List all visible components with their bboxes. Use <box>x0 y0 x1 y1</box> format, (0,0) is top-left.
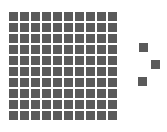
grid-square <box>20 89 29 98</box>
grid-square <box>75 100 84 109</box>
grid-square <box>9 78 18 87</box>
grid-square <box>42 67 51 76</box>
grid-square <box>9 34 18 43</box>
grid-square <box>20 45 29 54</box>
grid-square <box>86 56 95 65</box>
grid-square <box>97 56 106 65</box>
grid-square <box>20 67 29 76</box>
grid-square <box>9 100 18 109</box>
square-grid <box>9 12 117 120</box>
grid-square <box>108 12 117 21</box>
grid-square <box>86 45 95 54</box>
grid-square <box>53 78 62 87</box>
grid-square <box>42 12 51 21</box>
grid-square <box>108 23 117 32</box>
loose-square <box>151 60 160 69</box>
grid-square <box>64 100 73 109</box>
grid-square <box>75 78 84 87</box>
grid-square <box>86 78 95 87</box>
grid-square <box>9 67 18 76</box>
grid-square <box>75 111 84 120</box>
grid-square <box>31 56 40 65</box>
grid-square <box>53 67 62 76</box>
grid-square <box>53 56 62 65</box>
grid-square <box>42 89 51 98</box>
grid-square <box>31 23 40 32</box>
grid-square <box>108 67 117 76</box>
grid-square <box>64 111 73 120</box>
grid-square <box>108 45 117 54</box>
grid-square <box>31 67 40 76</box>
grid-square <box>53 45 62 54</box>
grid-square <box>75 23 84 32</box>
grid-square <box>31 34 40 43</box>
grid-square <box>64 12 73 21</box>
grid-square <box>9 89 18 98</box>
grid-square <box>97 23 106 32</box>
loose-square <box>139 43 148 52</box>
grid-square <box>75 56 84 65</box>
grid-square <box>108 89 117 98</box>
grid-square <box>97 67 106 76</box>
grid-square <box>86 89 95 98</box>
grid-square <box>20 111 29 120</box>
grid-square <box>20 23 29 32</box>
grid-square <box>86 100 95 109</box>
grid-square <box>75 12 84 21</box>
grid-square <box>31 100 40 109</box>
grid-square <box>108 78 117 87</box>
grid-square <box>42 34 51 43</box>
grid-square <box>53 12 62 21</box>
loose-square <box>138 77 147 86</box>
grid-square <box>64 56 73 65</box>
grid-square <box>53 89 62 98</box>
grid-square <box>108 34 117 43</box>
grid-square <box>9 45 18 54</box>
grid-square <box>9 23 18 32</box>
grid-square <box>86 23 95 32</box>
grid-square <box>31 12 40 21</box>
grid-square <box>42 45 51 54</box>
grid-square <box>42 23 51 32</box>
grid-square <box>53 111 62 120</box>
grid-square <box>42 56 51 65</box>
grid-square <box>64 34 73 43</box>
grid-square <box>75 34 84 43</box>
grid-square <box>20 56 29 65</box>
grid-square <box>86 12 95 21</box>
grid-square <box>64 23 73 32</box>
grid-square <box>42 78 51 87</box>
grid-square <box>20 78 29 87</box>
grid-square <box>53 23 62 32</box>
grid-square <box>97 111 106 120</box>
grid-square <box>64 89 73 98</box>
grid-square <box>9 12 18 21</box>
grid-square <box>20 100 29 109</box>
grid-square <box>97 89 106 98</box>
grid-square <box>97 45 106 54</box>
grid-square <box>42 111 51 120</box>
grid-square <box>20 12 29 21</box>
grid-square <box>64 45 73 54</box>
grid-square <box>9 56 18 65</box>
grid-square <box>64 78 73 87</box>
grid-square <box>9 111 18 120</box>
grid-square <box>31 45 40 54</box>
grid-square <box>75 45 84 54</box>
grid-square <box>20 34 29 43</box>
grid-square <box>108 100 117 109</box>
grid-square <box>42 100 51 109</box>
grid-square <box>64 67 73 76</box>
grid-square <box>86 67 95 76</box>
grid-square <box>86 34 95 43</box>
grid-square <box>97 100 106 109</box>
grid-square <box>97 34 106 43</box>
grid-square <box>108 111 117 120</box>
grid-square <box>31 111 40 120</box>
grid-square <box>31 78 40 87</box>
grid-square <box>97 78 106 87</box>
grid-square <box>31 89 40 98</box>
grid-square <box>97 12 106 21</box>
grid-square <box>108 56 117 65</box>
grid-square <box>75 89 84 98</box>
